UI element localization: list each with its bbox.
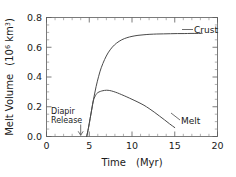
x-tick-label-0: 0 xyxy=(43,140,49,151)
y-axis-title-units-base: (10 xyxy=(4,49,15,66)
melt-label-leader xyxy=(171,113,180,120)
x-tick-label-1: 5 xyxy=(86,140,92,151)
x-tick-label-4: 20 xyxy=(211,140,223,151)
y-tick-label-3: 0.6 xyxy=(27,42,42,53)
diapir-release-arrow-icon xyxy=(78,125,83,136)
y-tick-label-1: 0.2 xyxy=(27,101,42,112)
y-axis-title-text: Melt Volume xyxy=(4,74,15,136)
crust-series-label: Crust xyxy=(194,25,218,35)
x-axis-title: Time (Myr) xyxy=(100,157,162,168)
x-tick-label-3: 15 xyxy=(169,140,181,151)
y-axis-title-units-close: ) xyxy=(4,18,15,22)
chart-figure: Crust Melt Diapir Release 0 5 10 15 20 0… xyxy=(0,0,236,177)
y-axis-title-units-tail: km xyxy=(4,26,15,45)
diapir-release-line2: Release xyxy=(51,116,82,125)
x-axis-title-text: Time xyxy=(100,157,125,168)
y-tick-label-4: 0.8 xyxy=(27,12,42,23)
y-axis-title: Melt Volume (106 km3) xyxy=(4,18,16,136)
x-axis-title-units: (Myr) xyxy=(136,157,163,168)
diapir-release-line1: Diapir xyxy=(51,107,76,116)
x-tick-label-2: 10 xyxy=(126,140,138,151)
melt-series-label: Melt xyxy=(181,116,201,126)
y-tick-label-0: 0.0 xyxy=(27,131,42,142)
y-tick-label-2: 0.4 xyxy=(27,71,42,82)
melt-volume-line-chart: Crust Melt Diapir Release 0 5 10 15 20 0… xyxy=(0,0,236,177)
melt-curve xyxy=(87,90,175,136)
